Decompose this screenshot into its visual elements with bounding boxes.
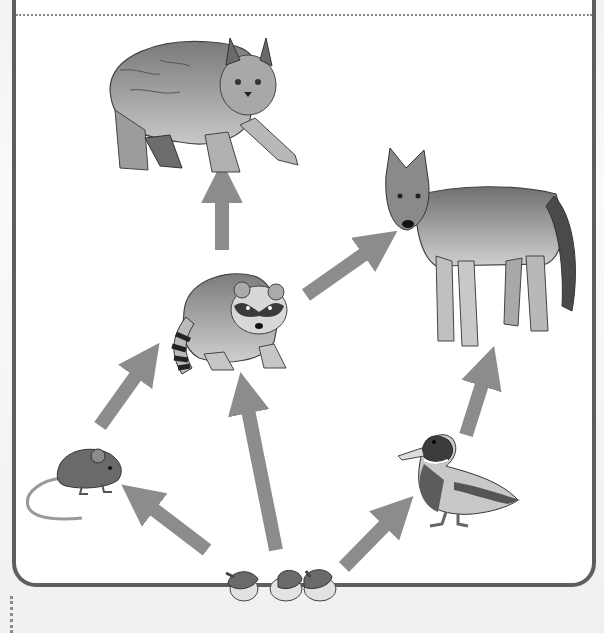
raccoon-illustration (164, 262, 296, 378)
arrow-acorns-to-mouse (148, 505, 207, 550)
coyote-illustration (376, 146, 581, 356)
acorn-2 (270, 570, 302, 601)
arrow-acorns-to-duck (344, 520, 390, 567)
mouse-illustration (22, 440, 132, 522)
food-web-diagram (0, 0, 604, 633)
acorn-3 (304, 570, 336, 601)
arrow-acorns-to-raccoon (247, 405, 276, 550)
arrow-mouse-to-raccoon (100, 370, 140, 426)
lynx-illustration (100, 30, 310, 180)
duck-illustration (388, 420, 528, 530)
acorn-1 (226, 572, 258, 601)
acorns-illustration (220, 565, 360, 605)
arrow-raccoon-to-coyote (306, 250, 370, 295)
